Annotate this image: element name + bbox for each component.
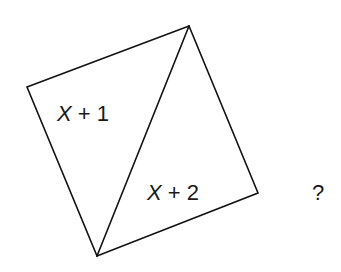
label-rest: + 2 bbox=[162, 180, 199, 205]
label-variable: X bbox=[146, 180, 163, 205]
label-rest: + 1 bbox=[72, 101, 109, 126]
question-mark: ? bbox=[312, 180, 324, 205]
square-diagram: X + 1 X + 2 ? bbox=[0, 0, 341, 272]
diagonal-line bbox=[97, 26, 189, 256]
region-label-upper: X + 1 bbox=[56, 101, 109, 126]
region-label-lower: X + 2 bbox=[146, 180, 199, 205]
label-variable: X bbox=[56, 101, 73, 126]
